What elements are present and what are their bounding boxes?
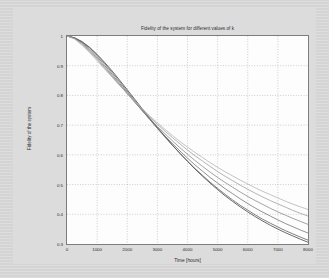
y-tick-label: 0.4 — [57, 212, 63, 217]
figure-canvas: Fidelity of the system for different val… — [13, 8, 316, 264]
y-tick-label: 0.5 — [57, 182, 63, 187]
y-tick-label: 0.7 — [57, 123, 63, 128]
y-tick-label: 1 — [61, 34, 63, 39]
y-tick-label: 0.6 — [57, 152, 63, 157]
y-tick-label: 0.8 — [57, 93, 63, 98]
data-curve-k5 — [67, 36, 308, 216]
x-tick-label: 1000 — [92, 247, 102, 252]
x-tick-label: 0 — [66, 247, 68, 252]
x-tick-label: 4000 — [183, 247, 193, 252]
y-tick-label: 0.9 — [57, 63, 63, 68]
x-tick-label: 2000 — [122, 247, 132, 252]
x-tick-label: 6000 — [243, 247, 253, 252]
chart-title: Fidelity of the system for different val… — [66, 25, 309, 32]
curve-group — [67, 36, 308, 242]
x-tick-label: 3000 — [152, 247, 162, 252]
x-tick-label: 7000 — [273, 247, 283, 252]
x-axis-label: Time [hours] — [66, 258, 309, 263]
y-tick-label: 0.3 — [57, 242, 63, 247]
plot-area — [66, 35, 309, 245]
figure-background: Fidelity of the system for different val… — [0, 0, 329, 278]
x-tick-label: 8000 — [303, 247, 313, 252]
y-axis-label: Fidelity of the system — [27, 69, 32, 189]
x-tick-label: 5000 — [213, 247, 223, 252]
plot-svg — [67, 36, 308, 244]
